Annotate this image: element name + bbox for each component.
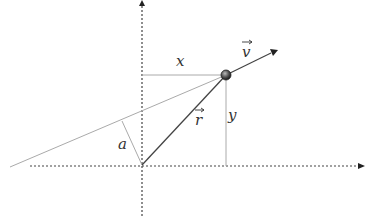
velocity-arrow-icon	[270, 49, 278, 56]
diagram-canvas: x y a r v	[0, 0, 366, 220]
label-r: r	[195, 111, 203, 129]
position-vector-r	[142, 75, 226, 165]
label-v: v	[242, 43, 251, 61]
label-x: x	[176, 52, 185, 70]
label-a: a	[118, 135, 127, 153]
label-y: y	[227, 106, 237, 124]
y-axis-arrow-icon	[139, 0, 145, 6]
particle	[221, 70, 231, 80]
line-of-motion	[10, 75, 226, 167]
x-axis-arrow-icon	[358, 163, 365, 169]
